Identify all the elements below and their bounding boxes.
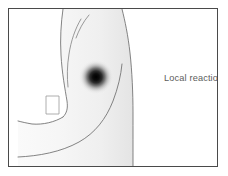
local-reaction-spot [78, 59, 114, 95]
sleeve-cuff [46, 96, 59, 114]
figure-frame: Local reaction [8, 8, 218, 167]
figure-root: Local reaction [0, 0, 228, 176]
local-reaction-label: Local reaction [164, 73, 218, 83]
arm-illustration [9, 9, 217, 166]
upper-arm-silhouette [18, 9, 133, 166]
